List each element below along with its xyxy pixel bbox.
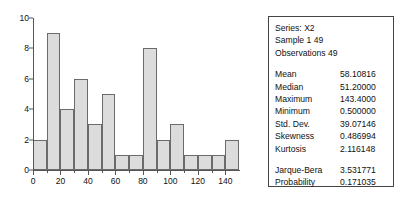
y-tick-label: 10 (0, 14, 33, 23)
statistic-value: 143.4000 (340, 93, 376, 105)
statistic-label: Maximum (275, 93, 312, 105)
x-tick-mark (60, 170, 61, 175)
histogram-bar (88, 124, 102, 170)
statistics-spacer (275, 59, 393, 68)
statistic-value: 51.20000 (340, 81, 376, 93)
histogram-bar (212, 155, 226, 170)
x-tick-label: 80 (138, 177, 147, 186)
x-tick-label: 100 (163, 177, 177, 186)
statistic-value: 0.500000 (340, 105, 376, 117)
statistic-row: Median51.20000 (275, 81, 393, 93)
statistic-label: Minimum (275, 105, 310, 117)
y-tick-label: 8 (0, 44, 33, 53)
statistics-header: Series: X2Sample 1 49Observations 49 (275, 22, 393, 59)
y-tick-label: 0 (0, 166, 33, 175)
statistic-value: 58.10816 (340, 68, 376, 80)
statistic-row: Skewness0.486994 (275, 130, 393, 142)
statistic-label: Std. Dev. (275, 118, 310, 130)
x-tick-mark (184, 170, 185, 173)
x-tick-label: 20 (56, 177, 65, 186)
statistics-panel: Series: X2Sample 1 49Observations 49 Mea… (268, 16, 394, 187)
y-tick-label: 6 (0, 75, 33, 84)
statistic-value: 3.531771 (340, 164, 376, 176)
statistic-test-row: Probability0.171035 (275, 176, 393, 188)
statistic-value: 2.116148 (340, 143, 375, 155)
statistic-value: 39.07146 (340, 118, 376, 130)
statistic-label: Median (275, 81, 303, 93)
statistic-value: 0.171035 (340, 176, 376, 188)
histogram-bar (129, 155, 143, 170)
x-tick-mark (143, 170, 144, 175)
statistics-test-rows: Jarque-Bera3.531771Probability0.171035 (275, 164, 393, 189)
x-tick-mark (88, 170, 89, 175)
histogram-bar (143, 48, 157, 170)
histogram-chart: 0246810 020406080100120140 (0, 0, 250, 205)
x-tick-mark (170, 170, 171, 175)
statistic-label: Mean (275, 68, 297, 80)
plot-area (33, 18, 239, 170)
statistic-row: Mean58.10816 (275, 68, 393, 80)
x-tick-mark (129, 170, 130, 173)
statistic-label: Kurtosis (275, 143, 306, 155)
x-tick-label: 0 (31, 177, 36, 186)
x-tick-label: 40 (83, 177, 92, 186)
histogram-bar (115, 155, 129, 170)
histogram-bar (225, 140, 239, 170)
x-axis-line (33, 170, 240, 171)
statistic-label: Skewness (275, 130, 314, 142)
histogram-bar (60, 109, 74, 170)
histogram-statistics-figure: 0246810 020406080100120140 Series: X2Sam… (0, 0, 401, 205)
histogram-bar (33, 140, 47, 170)
statistics-header-line: Series: X2 (275, 22, 393, 34)
y-tick-label: 2 (0, 135, 33, 144)
x-tick-mark (47, 170, 48, 173)
y-tick-label: 4 (0, 105, 33, 114)
statistic-row: Minimum0.500000 (275, 105, 393, 117)
histogram-bar (198, 155, 212, 170)
statistics-header-line: Observations 49 (275, 47, 393, 59)
x-tick-mark (198, 170, 199, 175)
statistic-row: Std. Dev.39.07146 (275, 118, 393, 130)
statistic-test-row: Jarque-Bera3.531771 (275, 164, 393, 176)
statistics-header-line: Sample 1 49 (275, 34, 393, 46)
x-tick-mark (74, 170, 75, 173)
statistic-label: Jarque-Bera (275, 164, 322, 176)
statistic-label: Probability (275, 176, 315, 188)
x-tick-label: 120 (191, 177, 205, 186)
statistics-rows: Mean58.10816Median51.20000Maximum143.400… (275, 68, 393, 155)
y-axis-line (33, 18, 34, 171)
x-tick-label: 140 (218, 177, 232, 186)
histogram-bar (184, 155, 198, 170)
x-tick-mark (115, 170, 116, 175)
x-tick-mark (33, 170, 34, 175)
histogram-bar (170, 124, 184, 170)
statistics-spacer-2 (275, 155, 393, 164)
histogram-bar (102, 94, 116, 170)
histogram-bar (157, 140, 171, 170)
x-tick-mark (212, 170, 213, 173)
statistic-row: Kurtosis2.116148 (275, 143, 393, 155)
statistic-row: Maximum143.4000 (275, 93, 393, 105)
statistic-value: 0.486994 (340, 130, 376, 142)
histogram-bar (74, 79, 88, 170)
x-tick-mark (102, 170, 103, 173)
x-tick-mark (157, 170, 158, 173)
x-tick-label: 60 (111, 177, 120, 186)
x-tick-mark (225, 170, 226, 175)
histogram-bar (47, 33, 61, 170)
